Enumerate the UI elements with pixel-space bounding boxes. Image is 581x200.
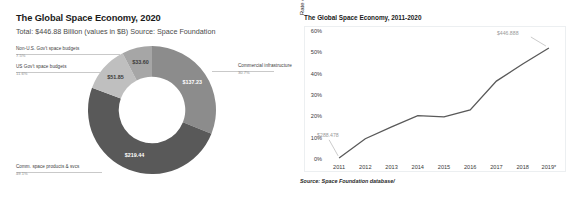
callout-pct-non-us-gov: 7.5% — [16, 53, 25, 58]
slice-value-comm-products: $219.44 — [125, 152, 145, 158]
donut-chart-title: The Global Space Economy, 2020 — [16, 13, 161, 23]
callout-label-us-gov: US Gov't space budgets — [16, 64, 67, 69]
donut-slice — [152, 46, 216, 134]
slice-value-us-gov: $51.85 — [107, 74, 124, 80]
donut-chart-subtitle: Total: $446.88 Billion (values in $B) So… — [16, 27, 215, 36]
line-chart-panel: The Global Space Economy, 2011-2020 Rate… — [296, 0, 581, 200]
callout-pct-commercial-infrastructure: 30.7% — [238, 70, 250, 75]
annotation-leader-end — [531, 37, 546, 46]
series-polyline — [339, 48, 549, 158]
donut-svg: $137.23 $219.44 $51.85 $33.60 — [86, 44, 218, 176]
annotation-leader-start — [329, 140, 338, 156]
space-economy-figure: The Global Space Economy, 2020 Total: $4… — [0, 0, 581, 200]
callout-label-commercial-infrastructure: Commercial infrastructure — [238, 63, 292, 68]
callout-pct-us-gov: 11.6% — [16, 71, 27, 76]
donut-chart: $137.23 $219.44 $51.85 $33.60 — [86, 44, 218, 176]
slice-value-non-us-gov: $33.60 — [132, 59, 149, 65]
donut-chart-panel: The Global Space Economy, 2020 Total: $4… — [0, 0, 292, 200]
slice-value-commercial-infrastructure: $137.23 — [183, 79, 203, 85]
callout-label-comm-products: Comm. space products & svcs — [16, 164, 79, 169]
annotation-end-value: $446.888 — [497, 30, 519, 36]
annotation-start-value: $288.478 — [317, 132, 339, 138]
source-note: Source: Space Foundation database/ — [300, 178, 395, 184]
line-series-svg — [296, 0, 581, 200]
callout-pct-comm-products: 49.1% — [16, 171, 28, 176]
callout-label-non-us-gov: Non-U.S. Gov't space budgets — [16, 46, 79, 51]
